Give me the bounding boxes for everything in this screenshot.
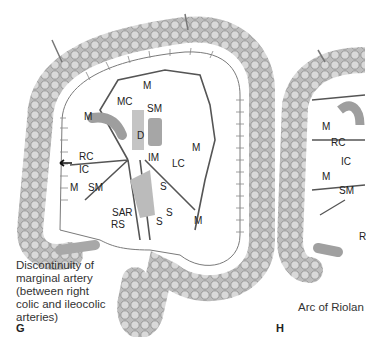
label-h-superior-mesenteric: SM bbox=[339, 186, 354, 196]
label-sigmoid-2: S bbox=[166, 208, 173, 218]
label-marginal-right: M bbox=[192, 143, 200, 153]
label-h-marginal-1: M bbox=[322, 122, 330, 132]
label-h-partial: R bbox=[359, 232, 366, 242]
caption-panel-g: Discontinuity of marginal artery (betwee… bbox=[16, 259, 106, 324]
label-sigmoid-3: S bbox=[156, 217, 163, 227]
label-ileocolic: IC bbox=[79, 165, 89, 175]
label-inferior-mesenteric: IM bbox=[148, 153, 159, 163]
label-marginal-left: M bbox=[84, 112, 92, 122]
caption-line: Discontinuity of bbox=[16, 259, 106, 272]
panel-letter-g: G bbox=[16, 322, 25, 334]
label-h-marginal-2: M bbox=[322, 172, 330, 182]
label-superior-mesenteric-low: SM bbox=[88, 183, 103, 193]
label-sigmoid-1: S bbox=[160, 182, 167, 192]
caption-panel-h: Arc of Riolan bbox=[298, 301, 364, 314]
label-marginal-low: M bbox=[70, 183, 78, 193]
caption-line: arteries) bbox=[16, 311, 106, 324]
label-rectosigmoid: RS bbox=[111, 220, 125, 230]
label-marginal-top: M bbox=[143, 81, 151, 91]
caption-line: marginal artery bbox=[16, 272, 106, 285]
label-h-right-colic: RC bbox=[331, 138, 345, 148]
label-right-colic: RC bbox=[79, 152, 93, 162]
caption-line: (between right bbox=[16, 285, 106, 298]
caption-line: colic and ileocolic bbox=[16, 298, 106, 311]
label-left-colic: LC bbox=[172, 159, 185, 169]
caption-line: Arc of Riolan bbox=[298, 301, 364, 314]
label-superior-mesenteric-top: SM bbox=[147, 104, 162, 114]
label-middle-colic: MC bbox=[117, 97, 133, 107]
label-marginal-bottom-right: M bbox=[194, 216, 202, 226]
label-duodenum: D bbox=[137, 131, 144, 141]
label-h-ileocolic: IC bbox=[341, 157, 351, 167]
panel-letter-h: H bbox=[276, 322, 284, 334]
panel-h-colon bbox=[290, 50, 365, 270]
label-superior-anorectal: SAR bbox=[112, 208, 133, 218]
